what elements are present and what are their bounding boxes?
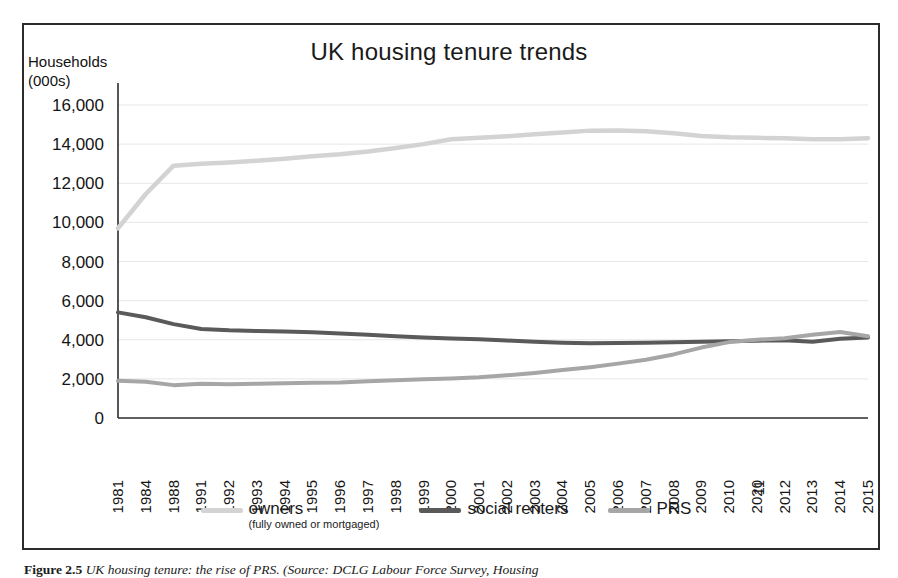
figure-caption: Figure 2.5 UK housing tenure: the rise o…	[24, 562, 884, 578]
legend-label-social-renters: social renters	[467, 499, 568, 518]
legend-swatch-social-renters	[419, 508, 461, 513]
legend-swatch-owners	[201, 508, 243, 513]
figure-caption-number: Figure 2.5	[24, 562, 82, 577]
chart-title: UK housing tenure trends	[0, 38, 898, 66]
legend-swatch-prs	[608, 508, 650, 513]
y-axis-title: Households (000s)	[28, 52, 107, 90]
legend-sublabel-owners: (fully owned or mortgaged)	[249, 519, 380, 531]
legend-item-owners: owners (fully owned or mortgaged)	[201, 500, 380, 530]
figure-border	[22, 23, 880, 550]
chart-legend: owners (fully owned or mortgaged) social…	[96, 500, 796, 548]
legend-label-owners: owners	[249, 499, 304, 518]
legend-item-prs: PRS	[608, 500, 691, 518]
legend-item-social-renters: social renters	[419, 500, 568, 518]
figure-caption-text: UK housing tenure: the rise of PRS. (Sou…	[86, 562, 539, 577]
legend-label-prs: PRS	[656, 499, 691, 518]
